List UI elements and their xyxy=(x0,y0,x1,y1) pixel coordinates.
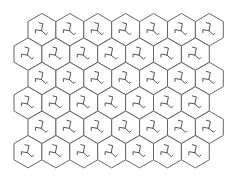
game-board xyxy=(0,0,236,179)
